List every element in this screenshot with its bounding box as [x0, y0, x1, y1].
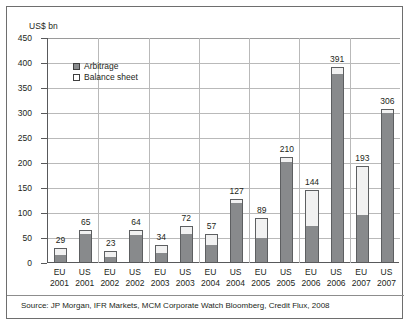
- gridline-y-50: [48, 238, 400, 239]
- bar-segment-balance-sheet: [205, 234, 218, 245]
- y-axis-tick-label-250: 250: [18, 133, 32, 143]
- bar-segment-arbitrage: [230, 203, 243, 263]
- x-axis-label-eu-2005: EU2005: [248, 267, 273, 289]
- gridline-y-150: [48, 188, 400, 189]
- bar-segment-arbitrage: [255, 238, 268, 262]
- legend-label-arbitrage: Arbitrage: [84, 61, 119, 72]
- bar-us-2004: [230, 199, 243, 263]
- bar-value-label-us-2007: 306: [380, 96, 394, 106]
- bar-segment-arbitrage: [54, 255, 67, 263]
- x-axis-label-us-2002: US2002: [122, 267, 147, 289]
- y-axis-tick-label-0: 0: [27, 258, 32, 268]
- y-axis-tick-300: [41, 113, 47, 114]
- bar-segment-arbitrage: [305, 226, 318, 263]
- legend-swatch-balance-sheet: [73, 74, 80, 81]
- gridline-y-300: [48, 113, 400, 114]
- x-axis-label-eu-2002: EU2002: [97, 267, 122, 289]
- gridline-y-200: [48, 163, 400, 164]
- x-axis-region: EU: [47, 267, 72, 278]
- bar-eu-2007: [356, 166, 369, 263]
- bar-segment-arbitrage: [155, 253, 168, 263]
- bar-value-label-us-2002: 64: [131, 217, 140, 227]
- x-axis-label-us-2004: US2004: [223, 267, 248, 289]
- y-axis-tick-250: [41, 138, 47, 139]
- x-axis-region: EU: [298, 267, 323, 278]
- bar-value-label-eu-2003: 34: [156, 232, 165, 242]
- bar-value-label-eu-2007: 193: [355, 153, 369, 163]
- y-axis-tick-label-200: 200: [18, 158, 32, 168]
- x-axis-region: US: [374, 267, 399, 278]
- bar-segment-arbitrage: [180, 234, 193, 263]
- x-axis-year: 2007: [349, 278, 374, 289]
- bar-segment-balance-sheet: [356, 166, 369, 215]
- bar-us-2006: [331, 67, 344, 263]
- x-axis-region: US: [173, 267, 198, 278]
- bar-eu-2005: [255, 218, 268, 263]
- y-axis-tick-label-400: 400: [18, 58, 32, 68]
- x-axis-label-eu-2007: EU2007: [349, 267, 374, 289]
- x-axis-region: US: [324, 267, 349, 278]
- x-axis-year: 2006: [298, 278, 323, 289]
- bar-value-label-us-2003: 72: [182, 213, 191, 223]
- bar-us-2002: [129, 230, 142, 262]
- bar-segment-balance-sheet: [54, 248, 67, 255]
- bar-value-label-eu-2006: 144: [305, 177, 319, 187]
- y-axis-tick-label-450: 450: [18, 33, 32, 43]
- gridline-y-450: [48, 38, 400, 39]
- bar-us-2003: [180, 226, 193, 262]
- bar-segment-arbitrage: [104, 257, 117, 262]
- bar-segment-arbitrage: [129, 235, 142, 263]
- y-axis-unit-label: US$ bn: [29, 21, 58, 31]
- bar-segment-balance-sheet: [155, 245, 168, 253]
- chart-frame: US$ bn 296523643472571278921014439119330…: [6, 6, 403, 319]
- x-axis-label-us-2001: US2001: [72, 267, 97, 289]
- bar-value-label-us-2004: 127: [229, 186, 243, 196]
- y-axis-tick-100: [41, 213, 47, 214]
- bar-eu-2002: [104, 251, 117, 263]
- bar-eu-2006: [305, 190, 318, 262]
- x-axis-region: US: [223, 267, 248, 278]
- gridline-x-12: [350, 38, 351, 263]
- bar-value-label-eu-2004: 57: [207, 221, 216, 231]
- gridline-x-6: [199, 38, 200, 263]
- gridline-y-250: [48, 138, 400, 139]
- y-axis-tick-label-50: 50: [23, 233, 32, 243]
- x-axis-region: US: [273, 267, 298, 278]
- x-axis-year: 2004: [198, 278, 223, 289]
- x-axis-year: 2003: [148, 278, 173, 289]
- gridline-y-350: [48, 88, 400, 89]
- x-axis-year: 2004: [223, 278, 248, 289]
- x-axis-year: 2003: [173, 278, 198, 289]
- bar-segment-balance-sheet: [180, 226, 193, 234]
- legend-swatch-arbitrage: [73, 63, 80, 70]
- y-axis-tick-450: [41, 38, 47, 39]
- x-axis-year: 2001: [47, 278, 72, 289]
- y-axis-tick-350: [41, 88, 47, 89]
- x-axis-region: US: [72, 267, 97, 278]
- gridline-x-10: [299, 38, 300, 263]
- x-axis-label-eu-2001: EU2001: [47, 267, 72, 289]
- bar-segment-arbitrage: [205, 245, 218, 263]
- gridline-x-4: [149, 38, 150, 263]
- bar-segment-arbitrage: [79, 234, 92, 263]
- legend-label-balance-sheet: Balance sheet: [84, 72, 138, 83]
- bar-us-2001: [79, 230, 92, 263]
- y-axis-tick-label-100: 100: [18, 208, 32, 218]
- y-axis-tick-150: [41, 188, 47, 189]
- x-axis-year: 2006: [324, 278, 349, 289]
- bar-value-label-eu-2002: 23: [106, 238, 115, 248]
- x-axis-year: 2002: [97, 278, 122, 289]
- bar-us-2005: [280, 157, 293, 262]
- x-axis-year: 2007: [374, 278, 399, 289]
- x-axis-label-us-2005: US2005: [273, 267, 298, 289]
- x-axis-label-eu-2003: EU2003: [148, 267, 173, 289]
- bar-value-label-us-2001: 65: [81, 217, 90, 227]
- gridline-x-8: [249, 38, 250, 263]
- bar-segment-balance-sheet: [305, 190, 318, 226]
- x-axis-region: EU: [148, 267, 173, 278]
- chart-legend: Arbitrage Balance sheet: [73, 61, 138, 83]
- bar-value-label-us-2006: 391: [330, 54, 344, 64]
- y-axis-tick-400: [41, 63, 47, 64]
- x-axis-label-eu-2004: EU2004: [198, 267, 223, 289]
- y-axis-tick-label-350: 350: [18, 83, 32, 93]
